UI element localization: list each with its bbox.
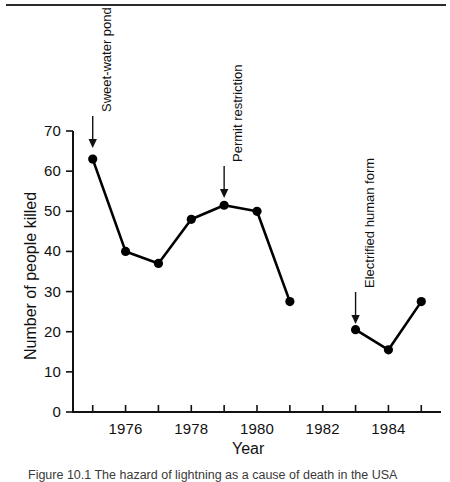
data-point-1985: [417, 297, 426, 306]
y-tick-label-70: 70: [21, 122, 61, 139]
x-tick-label-1980: 1980: [227, 420, 287, 437]
x-axis-title: Year: [232, 440, 264, 458]
annotation-arrow-head-0: [89, 139, 97, 148]
x-tick-label-1984: 1984: [358, 420, 418, 437]
series-line-segment-1: [93, 159, 290, 302]
data-point-1977: [154, 259, 163, 268]
y-axis-title: Number of people killed: [22, 192, 40, 360]
annotation-arrows-group: [89, 116, 360, 324]
annotation-arrow-head-2: [351, 315, 359, 324]
annotation-label-1: Permit restriction: [230, 64, 245, 162]
series-line-segment-2: [356, 302, 422, 350]
y-tick-label-0: 0: [21, 403, 61, 420]
figure-caption: Figure 10.1 The hazard of lightning as a…: [28, 468, 443, 482]
annotation-arrow-head-1: [220, 189, 228, 198]
x-tick-label-1976: 1976: [96, 420, 156, 437]
data-point-1976: [121, 247, 130, 256]
data-point-1978: [187, 215, 196, 224]
axis-spines: [73, 131, 441, 412]
annotation-label-2: Electrified human form: [362, 158, 377, 288]
data-point-1981: [285, 297, 294, 306]
axes-group: [73, 131, 441, 412]
data-point-1980: [252, 207, 261, 216]
data-point-1984: [384, 345, 393, 354]
data-point-1975: [88, 155, 97, 164]
x-tick-label-1978: 1978: [161, 420, 221, 437]
y-tick-label-60: 60: [21, 162, 61, 179]
data-point-1983: [351, 325, 360, 334]
annotation-label-0: Sweet-water pond: [99, 7, 114, 112]
data-point-1979: [220, 201, 229, 210]
y-tick-label-10: 10: [21, 363, 61, 380]
x-tick-label-1982: 1982: [293, 420, 353, 437]
